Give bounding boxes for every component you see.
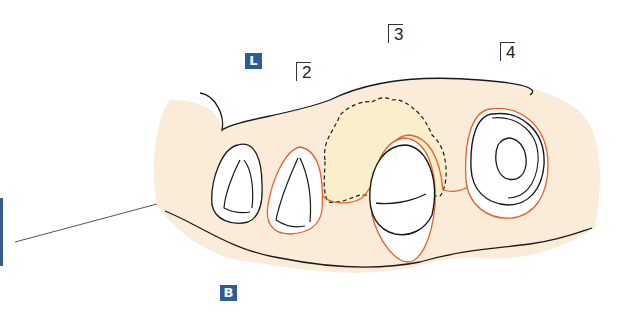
dental-arch-diagram <box>0 0 618 320</box>
tooth-number-3: 3 <box>388 24 403 43</box>
buccal-label-badge: B <box>220 285 237 301</box>
leader-line <box>15 204 157 242</box>
lingual-label-badge: L <box>245 53 262 69</box>
tooth-number-2: 2 <box>296 62 311 81</box>
tooth-number-4: 4 <box>500 42 515 61</box>
